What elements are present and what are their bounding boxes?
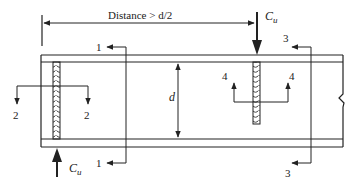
section-3-label-top: 3 (283, 32, 289, 44)
girder (41, 55, 344, 147)
section-2-label-right: 2 (84, 109, 90, 121)
right-stiffener (253, 62, 260, 124)
section-1-label-bottom: 1 (96, 157, 102, 169)
top-load-arrow (252, 12, 262, 55)
section-1-cut (107, 47, 126, 163)
depth-label: d (169, 90, 176, 104)
section-4-label-right: 4 (289, 70, 295, 82)
section-4-label-left: 4 (222, 70, 228, 82)
section-3-label-bottom: 3 (285, 167, 291, 179)
bottom-load-arrow (52, 148, 62, 177)
section-2-label-left: 2 (13, 109, 19, 121)
section-4-cut (234, 83, 288, 102)
section-3-cut (292, 47, 311, 163)
bottom-load-label: Cu (69, 161, 82, 177)
dimension-label: Distance > d/2 (108, 9, 172, 21)
top-load-label: Cu (265, 9, 278, 25)
girder-diagram: Distance > d/2 2 2 1 1 d (0, 0, 358, 188)
section-1-label-top: 1 (96, 41, 102, 53)
left-stiffener (53, 62, 60, 139)
